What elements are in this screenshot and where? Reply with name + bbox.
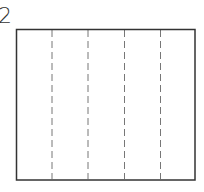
outer-rectangle (17, 30, 196, 181)
divided-rectangle-diagram (0, 0, 204, 192)
column-divider-lines (52, 30, 161, 179)
